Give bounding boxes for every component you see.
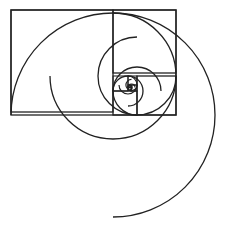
golden-spiral-canvas — [0, 0, 225, 230]
golden-spiral-diagram — [0, 0, 225, 230]
